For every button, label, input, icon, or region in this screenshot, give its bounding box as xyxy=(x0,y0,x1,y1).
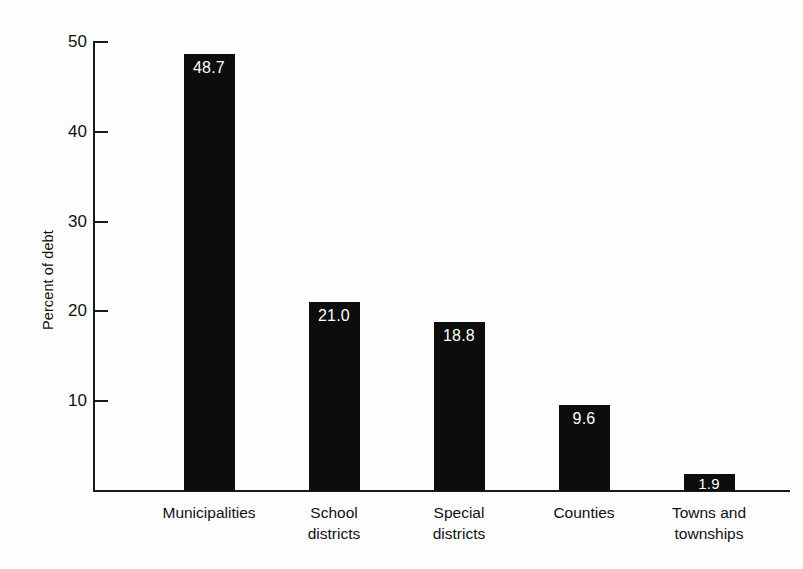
y-axis-title: Percent of debt xyxy=(40,30,64,330)
bar-3[interactable]: 9.6 xyxy=(559,405,610,491)
bar-0[interactable]: 48.7 xyxy=(184,54,235,491)
y-tick-label-40: 40 xyxy=(53,122,87,142)
y-tick-label-10: 10 xyxy=(53,391,87,411)
category-label-4: Towns andtownships xyxy=(634,502,784,544)
bar-chart: Percent of debt 5040302010 48.721.018.89… xyxy=(0,0,803,569)
category-label-line: districts xyxy=(384,523,534,544)
y-tick-label-wrap: 20 xyxy=(53,311,87,312)
y-axis-line xyxy=(93,42,95,492)
y-tick-label-30: 30 xyxy=(53,212,87,232)
y-tick-50 xyxy=(93,41,108,43)
category-label-line: townships xyxy=(634,523,784,544)
bar-value-label-2: 18.8 xyxy=(434,327,485,345)
bar-2[interactable]: 18.8 xyxy=(434,322,485,491)
bar-1[interactable]: 21.0 xyxy=(309,302,360,491)
bar-value-label-4: 1.9 xyxy=(684,475,735,492)
category-label-line: Towns and xyxy=(634,502,784,523)
y-tick-30 xyxy=(93,221,108,223)
y-tick-label-wrap: 30 xyxy=(53,222,87,223)
bar-value-label-0: 48.7 xyxy=(184,59,235,77)
y-tick-label-wrap: 10 xyxy=(53,401,87,402)
bar-4[interactable]: 1.9 xyxy=(684,474,735,491)
y-tick-label-wrap: 50 xyxy=(53,42,87,43)
bar-value-label-1: 21.0 xyxy=(309,307,360,325)
y-tick-label-20: 20 xyxy=(53,301,87,321)
y-tick-10 xyxy=(93,400,108,402)
y-tick-20 xyxy=(93,310,108,312)
bar-value-label-3: 9.6 xyxy=(559,410,610,428)
y-tick-40 xyxy=(93,131,108,133)
y-tick-label-50: 50 xyxy=(53,32,87,52)
y-tick-label-wrap: 40 xyxy=(53,132,87,133)
